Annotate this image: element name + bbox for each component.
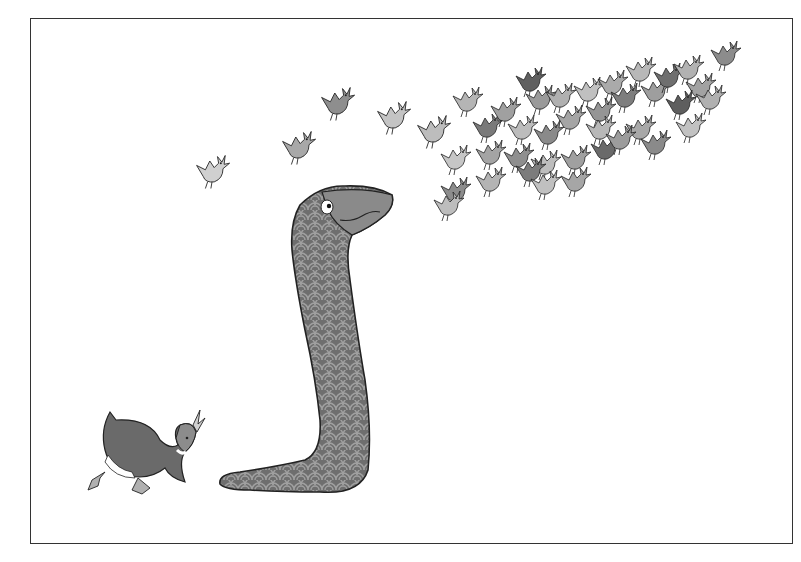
snake bbox=[220, 186, 393, 492]
snake-body bbox=[220, 186, 393, 492]
snake-pupil bbox=[327, 204, 331, 208]
duck bbox=[88, 410, 205, 494]
illustration-canvas bbox=[0, 0, 801, 562]
snake-eye bbox=[321, 200, 333, 214]
stray-birds bbox=[197, 88, 451, 189]
bird-flock bbox=[434, 41, 741, 221]
